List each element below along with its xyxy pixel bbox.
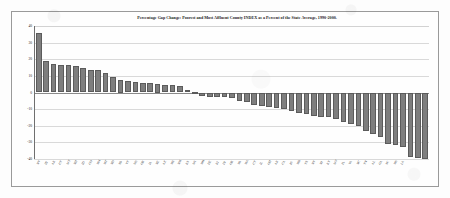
x-tick-label: IA [148, 161, 153, 165]
bar-slot [370, 26, 377, 159]
x-tick-label: DE [207, 160, 212, 165]
x-tick-label: AK [51, 160, 56, 166]
bar-slot [35, 26, 42, 159]
x-tick-label: GA [378, 160, 383, 166]
bar-slot [94, 26, 101, 159]
bar [147, 83, 153, 92]
bar [43, 61, 49, 93]
y-tick-label: 0 [30, 91, 32, 95]
x-tick-label: ID [81, 161, 86, 165]
bar [281, 93, 287, 110]
bar [88, 70, 94, 92]
x-tick-label: CT [252, 161, 257, 166]
bar [318, 93, 324, 117]
bar-slot [199, 26, 206, 159]
chart-frame: Percentage Gap Change: Poorest and Most … [11, 11, 439, 187]
x-tick-label: MO [200, 160, 205, 166]
x-tick-label: AR [274, 160, 279, 165]
bar [304, 93, 310, 115]
bar [214, 93, 220, 97]
x-tick-label: HI [44, 161, 49, 165]
bar-series [35, 26, 429, 159]
bar [199, 93, 205, 96]
bar [177, 86, 183, 93]
y-tick-label: 20 [28, 57, 32, 61]
y-tick-label: -40 [27, 157, 32, 161]
x-tick-label: IL [259, 161, 263, 165]
bar [356, 93, 362, 126]
x-tick-label: NC [356, 160, 361, 165]
bar [66, 65, 72, 92]
bar-slot [273, 26, 280, 159]
bar-slot [265, 26, 272, 159]
bar-slot [422, 26, 429, 159]
bar [229, 93, 235, 99]
bar [36, 33, 42, 93]
bar-slot [50, 26, 57, 159]
x-tick-label: SD [118, 160, 123, 165]
bar-slot [72, 26, 79, 159]
x-tick-label: ME [170, 160, 175, 166]
bar [393, 93, 399, 145]
bar [274, 93, 280, 109]
bar-slot [42, 26, 49, 159]
x-tick-label: OR [141, 160, 146, 165]
bar [125, 81, 131, 93]
bar-slot [161, 26, 168, 159]
bar-slot [236, 26, 243, 159]
x-tick-label: CO [89, 160, 94, 165]
x-tick-label: WY [66, 159, 71, 165]
x-tick-label: TX [304, 160, 309, 165]
x-tick-label: AZ [163, 160, 168, 165]
x-tick-label: KY [326, 160, 331, 166]
bar [237, 93, 243, 101]
bar [244, 93, 250, 102]
bar-slot [87, 26, 94, 159]
bar-slot [154, 26, 161, 159]
bar [363, 93, 369, 131]
bar-slot [176, 26, 183, 159]
bar-slot [258, 26, 265, 159]
bar-slot [57, 26, 64, 159]
bar-slot [392, 26, 399, 159]
bar [170, 85, 176, 92]
y-tick-label: 40 [28, 24, 32, 28]
bar-slot [399, 26, 406, 159]
bar-slot [102, 26, 109, 159]
bar [422, 93, 428, 160]
bar [326, 93, 332, 118]
bar [385, 93, 391, 145]
bar [289, 93, 295, 111]
x-tick-label: WI [193, 161, 198, 166]
bar-slot [384, 26, 391, 159]
bar-slot [414, 26, 421, 159]
x-tick-label: MD [297, 160, 302, 166]
bar [80, 68, 86, 92]
bar-slot [65, 26, 72, 159]
x-tick-label: MS [393, 160, 398, 166]
bar [370, 93, 376, 135]
bar-slot [243, 26, 250, 159]
x-tick-label: MA [245, 160, 250, 166]
bar-slot [295, 26, 302, 159]
bar [118, 80, 124, 92]
bar [103, 73, 109, 92]
bar [341, 93, 347, 123]
bar-slot [407, 26, 414, 159]
chart-screenshot: Percentage Gap Change: Poorest and Most … [0, 0, 450, 198]
bar [95, 70, 101, 92]
x-tick-label: MN [96, 160, 101, 166]
bar-slot [117, 26, 124, 159]
bar [311, 93, 317, 116]
bar-slot [317, 26, 324, 159]
x-tick-label: UT [59, 160, 64, 165]
bar [251, 93, 257, 105]
x-tick-label: NV [36, 160, 41, 166]
x-tick-label: OH [267, 160, 272, 166]
bar [133, 82, 139, 93]
bar-slot [169, 26, 176, 159]
bar [110, 77, 116, 93]
bar [415, 93, 421, 159]
x-tick-label: VT [126, 160, 131, 165]
bar-slot [288, 26, 295, 159]
